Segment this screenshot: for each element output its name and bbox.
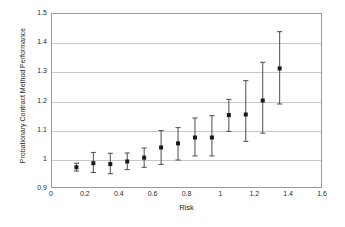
- data-point-marker: [142, 156, 146, 160]
- chart-figure: Probationary Contract Method Performance…: [0, 0, 345, 227]
- data-point-marker: [193, 136, 197, 140]
- x-axis-tick-label: 1.2: [239, 190, 269, 198]
- data-point-marker: [210, 136, 214, 140]
- x-axis-tick-label: 1: [205, 190, 235, 198]
- y-axis-tick-label: 1.1: [21, 126, 47, 134]
- data-point-group: [277, 32, 282, 104]
- data-point-marker: [278, 66, 282, 70]
- y-axis-tick-label: 1: [21, 155, 47, 163]
- x-axis-tick-labels: 00.20.40.60.811.21.41.6: [0, 190, 345, 202]
- data-point-marker: [159, 145, 163, 149]
- y-axis-tick-label: 1.2: [21, 97, 47, 105]
- data-point-group: [260, 62, 265, 133]
- y-axis-tick-label: 1.4: [21, 38, 47, 46]
- data-point-group: [192, 118, 197, 156]
- x-axis-tick-label: 0.2: [70, 190, 100, 198]
- data-point-group: [243, 81, 248, 142]
- data-point-group: [108, 153, 113, 173]
- data-point-group: [226, 99, 231, 131]
- data-point-group: [175, 128, 180, 160]
- data-point-marker: [108, 162, 112, 166]
- data-point-marker: [244, 113, 248, 117]
- data-point-group: [91, 152, 96, 172]
- x-axis-tick-label: 0.6: [138, 190, 168, 198]
- data-point-group: [74, 163, 79, 171]
- x-axis-tick-label: 0.4: [104, 190, 134, 198]
- data-layer: [51, 13, 322, 188]
- x-axis-tick-label: 1.4: [273, 190, 303, 198]
- x-axis-tick-label: 0.8: [172, 190, 202, 198]
- y-axis-tick-label: 1.5: [21, 9, 47, 17]
- data-point-group: [142, 148, 147, 167]
- data-point-marker: [227, 113, 231, 117]
- data-point-marker: [74, 165, 78, 169]
- data-point-marker: [261, 99, 265, 103]
- data-point-group: [125, 153, 130, 170]
- x-axis-tick-label: 1.6: [307, 190, 337, 198]
- x-axis-tick-label: 0: [36, 190, 66, 198]
- data-point-marker: [125, 159, 129, 163]
- data-point-group: [209, 116, 214, 156]
- data-point-marker: [176, 141, 180, 145]
- x-axis-title: Risk: [51, 203, 322, 212]
- data-point-marker: [91, 161, 95, 165]
- data-point-group: [158, 131, 163, 165]
- y-axis-tick-label: 1.3: [21, 67, 47, 75]
